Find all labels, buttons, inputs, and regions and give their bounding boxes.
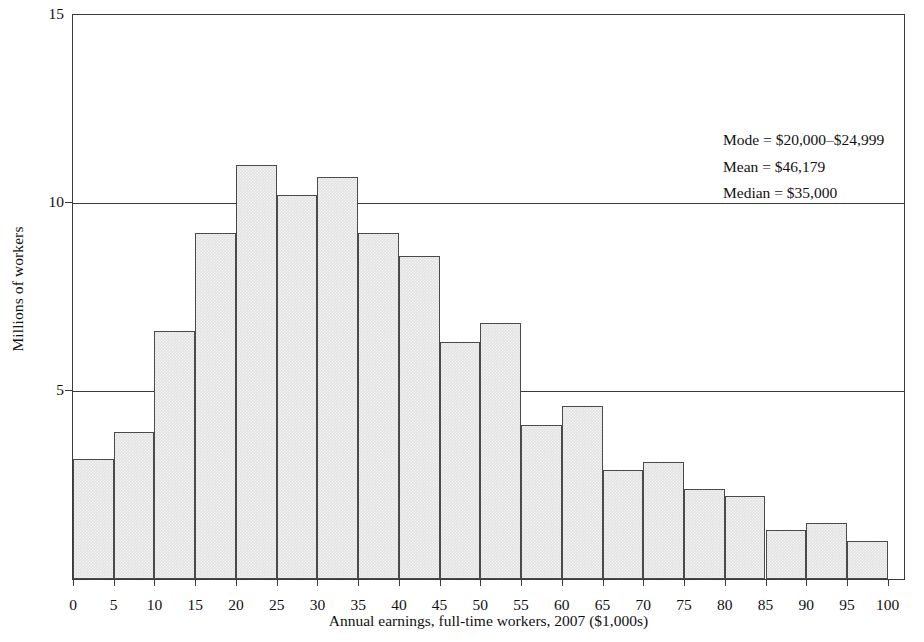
stats-mean: Mean = $46,179	[723, 154, 884, 181]
y-tick-label: 15	[30, 6, 64, 22]
y-tick-mark	[65, 202, 72, 203]
x-tick-mark	[847, 579, 848, 586]
x-tick-mark	[154, 579, 155, 586]
x-tick-label: 55	[499, 597, 543, 613]
x-tick-label: 50	[458, 597, 502, 613]
x-tick-label: 45	[418, 597, 462, 613]
x-tick-mark	[440, 579, 441, 586]
x-tick-label: 75	[662, 597, 706, 613]
x-tick-mark	[684, 579, 685, 586]
histogram-bar	[358, 233, 399, 579]
histogram-bar	[399, 256, 440, 579]
x-tick-mark	[73, 579, 74, 586]
x-tick-label: 60	[540, 597, 584, 613]
histogram-bar	[277, 195, 318, 579]
histogram-bar	[562, 406, 603, 579]
x-tick-label: 85	[744, 597, 788, 613]
x-tick-label: 5	[92, 597, 136, 613]
x-tick-label: 40	[377, 597, 421, 613]
x-tick-mark	[562, 579, 563, 586]
histogram-bar	[195, 233, 236, 579]
x-tick-label: 95	[825, 597, 869, 613]
histogram-bar	[480, 323, 521, 579]
x-tick-label: 30	[295, 597, 339, 613]
x-tick-label: 20	[214, 597, 258, 613]
x-tick-label: 25	[255, 597, 299, 613]
x-tick-label: 15	[173, 597, 217, 613]
histogram-bar	[725, 496, 766, 579]
x-tick-label: 80	[703, 597, 747, 613]
y-tick-mark	[65, 390, 72, 391]
histogram-bar	[73, 459, 114, 579]
histogram-figure: Millions of workers 05101520253035404550…	[0, 0, 924, 642]
bar-series	[73, 15, 904, 579]
x-tick-mark	[521, 579, 522, 586]
x-tick-mark	[766, 579, 767, 586]
stats-mode: Mode = $20,000–$24,999	[723, 127, 884, 154]
y-tick-label: 10	[30, 194, 64, 210]
y-tick-label: 5	[30, 382, 64, 398]
histogram-bar	[114, 432, 155, 579]
histogram-bar	[317, 177, 358, 579]
histogram-bar	[603, 470, 644, 579]
x-tick-label: 0	[51, 597, 95, 613]
x-tick-label: 100	[866, 597, 910, 613]
x-tick-label: 35	[336, 597, 380, 613]
plot-area: 0510152025303540455055606570758085909510…	[72, 14, 905, 580]
x-tick-mark	[888, 579, 889, 586]
x-tick-mark	[236, 579, 237, 586]
x-tick-mark	[399, 579, 400, 586]
histogram-bar	[236, 165, 277, 579]
x-tick-label: 65	[581, 597, 625, 613]
stats-annotation: Mode = $20,000–$24,999 Mean = $46,179 Me…	[723, 127, 884, 207]
x-tick-label: 10	[132, 597, 176, 613]
histogram-bar	[766, 530, 807, 579]
y-axis-label: Millions of workers	[0, 0, 36, 578]
x-tick-mark	[643, 579, 644, 586]
x-tick-mark	[317, 579, 318, 586]
histogram-bar	[684, 489, 725, 579]
x-tick-mark	[480, 579, 481, 586]
y-axis-label-text: Millions of workers	[9, 226, 27, 351]
x-tick-mark	[603, 579, 604, 586]
x-tick-mark	[114, 579, 115, 586]
x-tick-mark	[358, 579, 359, 586]
x-axis-label: Annual earnings, full-time workers, 2007…	[72, 612, 905, 630]
x-tick-label: 70	[621, 597, 665, 613]
histogram-bar	[154, 331, 195, 579]
x-tick-mark	[806, 579, 807, 586]
x-tick-mark	[725, 579, 726, 586]
histogram-bar	[521, 425, 562, 579]
histogram-bar	[806, 523, 847, 579]
histogram-bar	[440, 342, 481, 579]
histogram-bar	[847, 541, 888, 579]
x-tick-mark	[195, 579, 196, 586]
x-tick-label: 90	[784, 597, 828, 613]
x-tick-mark	[277, 579, 278, 586]
histogram-bar	[643, 462, 684, 579]
stats-median: Median = $35,000	[723, 180, 884, 207]
